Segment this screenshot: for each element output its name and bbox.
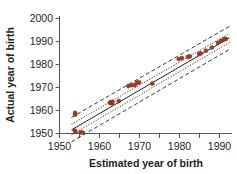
y-tick-label: 1950 [30,127,54,139]
x-tick-label: 1990 [208,140,232,152]
data-point [199,51,203,55]
x-tick-label: 1980 [168,140,192,152]
data-point [204,49,208,53]
data-point [111,100,115,104]
data-point [150,81,154,85]
data-point [81,130,85,134]
x-tick-label: 1950 [48,140,72,152]
x-axis-title: Estimated year of birth [89,157,203,169]
data-point [137,80,141,84]
data-point [73,111,77,115]
scatter-plot: 2000 1990 1980 1970 1960 1950 1950 1960 … [0,0,237,174]
y-tick-label: 1990 [30,35,54,47]
data-points [73,37,228,135]
data-point [73,130,77,134]
data-point [188,54,192,58]
confidence-band-lower [72,42,230,134]
chart-figure: 2000 1990 1980 1970 1960 1950 1950 1960 … [0,0,237,174]
y-axis-ticks [56,19,60,134]
data-point [117,99,121,103]
y-axis-title: Actual year of birth [4,27,16,123]
data-point [180,56,184,60]
confidence-band-upper [72,33,230,124]
y-axis-tick-labels: 2000 1990 1980 1970 1960 1950 [30,12,54,139]
y-tick-label: 1960 [30,104,54,116]
y-tick-label: 1980 [30,58,54,70]
prediction-band-lower [72,49,230,141]
x-tick-label: 1960 [88,140,112,152]
y-tick-label: 2000 [30,12,54,24]
data-point [224,37,228,41]
x-tick-label: 1970 [128,140,152,152]
x-axis-tick-labels: 1950 1960 1970 1980 1990 [48,140,232,152]
prediction-band-upper [72,26,230,117]
data-point [210,45,214,49]
y-tick-label: 1970 [30,81,54,93]
